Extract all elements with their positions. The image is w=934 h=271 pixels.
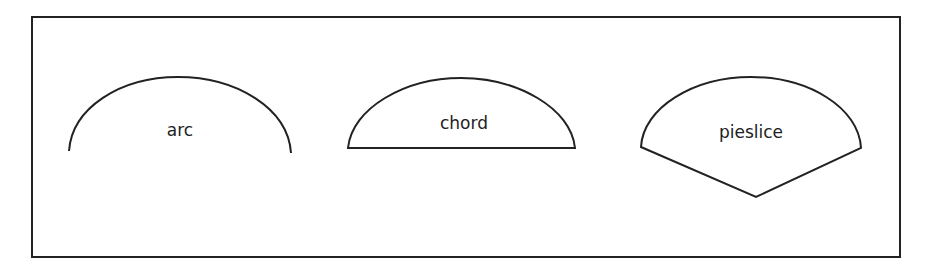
diagram-canvas: arc chord pieslice <box>0 0 934 271</box>
pieslice-label: pieslice <box>719 122 783 142</box>
arc-shape: arc <box>69 77 291 153</box>
chord-shape: chord <box>348 78 575 148</box>
arc-label: arc <box>167 120 193 140</box>
pieslice-shape: pieslice <box>641 77 861 197</box>
chord-label: chord <box>440 113 488 133</box>
